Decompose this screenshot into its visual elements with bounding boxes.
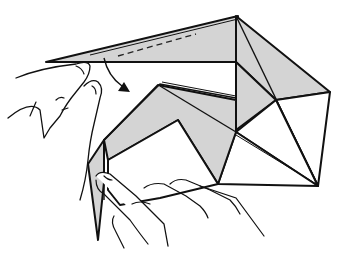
left-flap xyxy=(88,140,104,240)
top-flap xyxy=(46,16,238,62)
fold-arrow-icon xyxy=(104,58,130,92)
origami-illustration xyxy=(0,0,342,276)
origami-diagram xyxy=(0,0,342,276)
left-hand xyxy=(8,62,102,200)
